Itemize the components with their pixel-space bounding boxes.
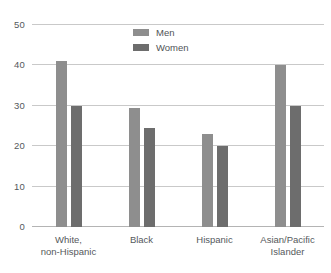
- x-axis-category-label: Asian/PacificIslander: [233, 234, 331, 258]
- bar-group: Asian/PacificIslander: [275, 25, 301, 227]
- bar-group: Hispanic: [202, 25, 228, 227]
- y-axis-tick-label: 10: [14, 180, 25, 191]
- bar-men[interactable]: [56, 61, 67, 227]
- bar-women[interactable]: [144, 128, 155, 227]
- bar-men[interactable]: [129, 108, 140, 227]
- y-axis-tick-label: 0: [20, 221, 25, 232]
- y-axis-tick-label: 40: [14, 59, 25, 70]
- chart-legend: Men Women: [133, 26, 189, 56]
- bar-chart: 01020304050 White,non-HispanicBlackHispa…: [0, 0, 331, 273]
- legend-label-men: Men: [156, 27, 174, 38]
- legend-item-women[interactable]: Women: [133, 41, 189, 54]
- legend-swatch-women-icon: [133, 44, 149, 51]
- bar-women[interactable]: [217, 146, 228, 227]
- legend-item-men[interactable]: Men: [133, 26, 189, 39]
- y-axis-tick-label: 50: [14, 19, 25, 30]
- legend-swatch-men-icon: [133, 29, 149, 36]
- bar-men[interactable]: [202, 134, 213, 227]
- y-axis-tick-label: 20: [14, 140, 25, 151]
- legend-label-women: Women: [156, 42, 189, 53]
- bar-women[interactable]: [290, 106, 301, 227]
- bar-men[interactable]: [275, 65, 286, 227]
- x-axis-label-line: Islander: [233, 246, 331, 258]
- x-axis-label-line: non-Hispanic: [14, 246, 124, 258]
- bar-women[interactable]: [71, 106, 82, 227]
- y-axis-tick-label: 30: [14, 99, 25, 110]
- x-axis-label-line: Asian/Pacific: [233, 234, 331, 246]
- bar-group: White,non-Hispanic: [56, 25, 82, 227]
